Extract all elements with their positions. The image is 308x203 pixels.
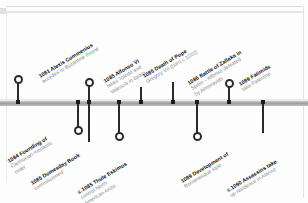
event-node-circle[interactable]: [193, 132, 202, 141]
event-node-circle[interactable]: [85, 78, 94, 87]
event-label: c.1085 Thule Eskimoscontrol NorthAmerica…: [76, 161, 134, 203]
event-title: 1085 Death of Pope: [142, 43, 196, 79]
event-axis-marker[interactable]: [195, 100, 199, 104]
page-frame-top-line: [6, 6, 302, 7]
event-node-circle[interactable]: [115, 132, 124, 141]
event-stem: [118, 104, 120, 133]
event-axis-marker[interactable]: [261, 100, 265, 104]
event-node-circle[interactable]: [14, 75, 23, 84]
event-label: 1086 Battle of Zallaka inSpain – Alfonso…: [186, 49, 248, 97]
event-title: 1081 Alexis Commenius: [38, 40, 97, 79]
event-node-circle[interactable]: [225, 79, 234, 88]
page-frame-top-band: [4, 11, 304, 13]
event-axis-marker[interactable]: [16, 100, 20, 104]
timeline-canvas: 1081 Alexis Commeniusaccedes to Byzantin…: [0, 0, 308, 203]
event-axis-marker[interactable]: [227, 100, 231, 104]
event-label: 1089 Development ofRomanesque style: [180, 151, 233, 190]
event-axis-marker[interactable]: [117, 100, 121, 104]
event-stem: [77, 104, 79, 127]
event-axis-marker[interactable]: [76, 100, 80, 104]
event-axis-marker[interactable]: [171, 100, 175, 104]
event-stem: [262, 104, 264, 133]
event-stem: [88, 104, 90, 142]
event-node-circle[interactable]: [74, 126, 83, 135]
event-stem: [196, 104, 198, 133]
event-label: c.1090 Assassins takeup residence in Ala…: [226, 158, 281, 198]
event-axis-marker[interactable]: [139, 100, 143, 104]
event-title: c.1090 Assassins take: [226, 158, 278, 193]
event-axis-marker[interactable]: [87, 100, 91, 104]
